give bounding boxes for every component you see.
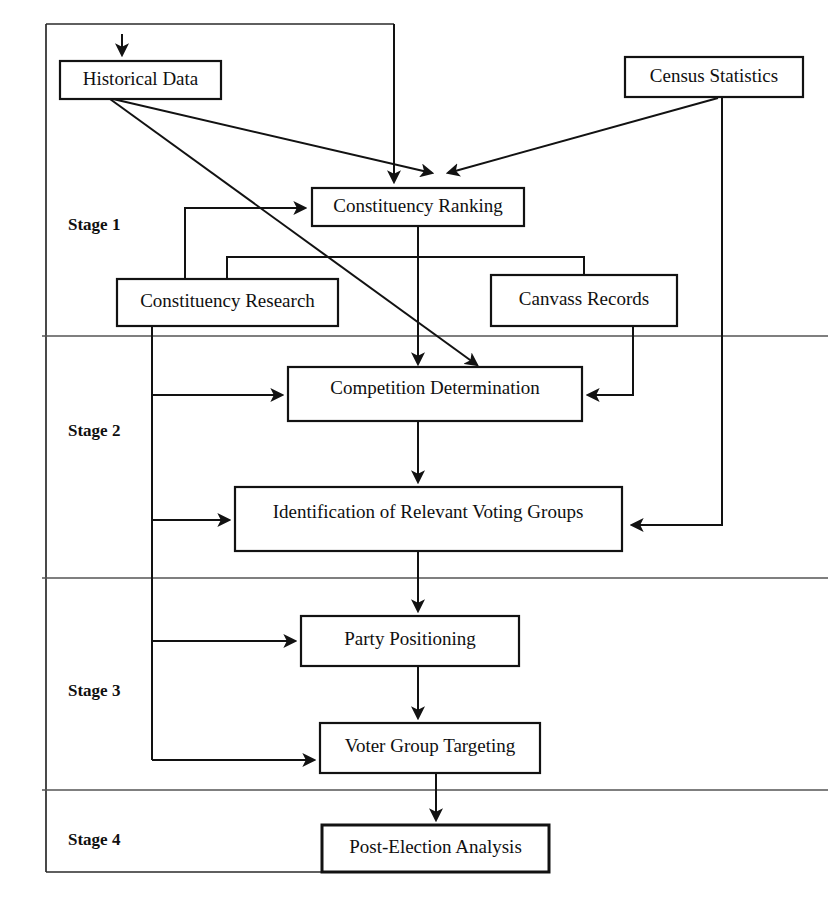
edge-constituency-research-to-constituency-ranking xyxy=(185,208,305,278)
node-canvass-records[interactable]: Canvass Records xyxy=(491,275,677,326)
edge-constituency-ranking-to-canvass-records xyxy=(418,226,584,274)
edge-census-statistics-to-constituency-ranking xyxy=(448,98,718,173)
node-competition-determination-label: Competition Determination xyxy=(330,377,540,398)
node-constituency-research-label: Constituency Research xyxy=(140,290,315,311)
node-post-election-analysis[interactable]: Post-Election Analysis xyxy=(322,825,549,872)
node-historical-data[interactable]: Historical Data xyxy=(60,61,221,99)
node-voter-group-targeting[interactable]: Voter Group Targeting xyxy=(320,723,540,773)
stage-label-3: Stage 3 xyxy=(68,681,120,700)
stage-label-4: Stage 4 xyxy=(68,830,121,849)
stage-labels: Stage 1 Stage 2 Stage 3 Stage 4 xyxy=(68,215,121,849)
node-identification-of-relevant-voting-groups-label: Identification of Relevant Voting Groups xyxy=(273,501,584,522)
node-party-positioning[interactable]: Party Positioning xyxy=(301,616,519,666)
node-constituency-research[interactable]: Constituency Research xyxy=(117,279,338,326)
node-census-statistics-label: Census Statistics xyxy=(650,65,778,86)
node-post-election-analysis-label: Post-Election Analysis xyxy=(349,836,522,857)
stage-label-1: Stage 1 xyxy=(68,215,120,234)
node-voter-group-targeting-label: Voter Group Targeting xyxy=(345,735,516,756)
node-historical-data-label: Historical Data xyxy=(83,68,199,89)
node-constituency-ranking-label: Constituency Ranking xyxy=(333,195,503,216)
node-party-positioning-label: Party Positioning xyxy=(344,628,476,649)
node-identification-of-relevant-voting-groups[interactable]: Identification of Relevant Voting Groups xyxy=(235,487,622,551)
node-competition-determination[interactable]: Competition Determination xyxy=(288,367,582,421)
flowchart-diagram: Stage 1 Stage 2 Stage 3 Stage 4 Historic… xyxy=(0,0,830,898)
node-census-statistics[interactable]: Census Statistics xyxy=(625,57,803,97)
stage-label-2: Stage 2 xyxy=(68,421,120,440)
node-constituency-ranking[interactable]: Constituency Ranking xyxy=(312,188,524,226)
node-canvass-records-label: Canvass Records xyxy=(519,288,649,309)
flowchart-canvas: Stage 1 Stage 2 Stage 3 Stage 4 Historic… xyxy=(0,0,830,898)
